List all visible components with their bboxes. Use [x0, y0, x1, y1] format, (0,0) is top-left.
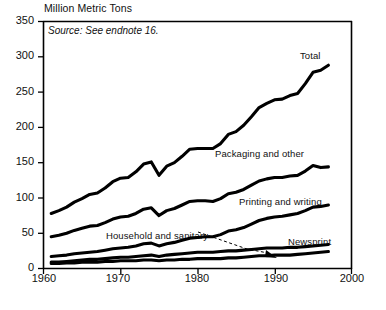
series-line-total — [51, 65, 328, 213]
chart-plot-area — [0, 0, 386, 310]
chart-axes — [43, 21, 352, 269]
series-line-packaging-and-other — [51, 165, 328, 236]
household-leader-arrow — [198, 232, 277, 258]
y-tick-marks — [38, 22, 43, 269]
chart-series-group — [51, 65, 328, 263]
x-tick-marks — [44, 269, 352, 275]
chart-figure: Million Metric Tons Source: See endnote … — [0, 0, 386, 310]
